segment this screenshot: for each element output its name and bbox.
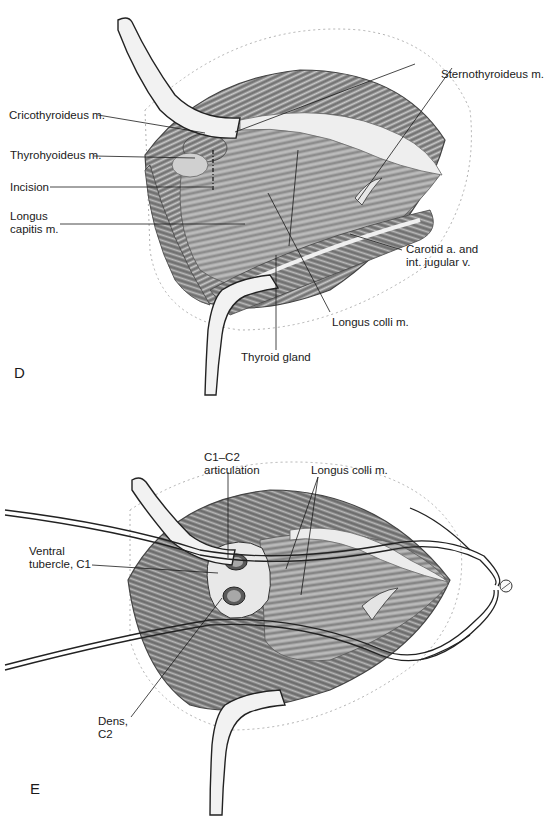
label-cricothyroideus: Cricothyroideus m. (9, 109, 105, 122)
label-carotid-line1: Carotid a. and (406, 243, 478, 256)
label-thyroid-gland: Thyroid gland (241, 351, 311, 364)
panel-d: Cricothyroideus m. Thyrohyoideus m. Inci… (0, 0, 541, 410)
label-longus-capitis-line1: Longus (10, 210, 48, 223)
label-longus-colli-e: Longus colli m. (311, 464, 388, 477)
label-c1c2-line2: articulation (204, 464, 260, 477)
panel-letter-d: D (14, 364, 25, 381)
surgical-field-illustration-e (0, 410, 541, 823)
label-c1c2-line1: C1–C2 (204, 451, 240, 464)
label-longus-colli-d: Longus colli m. (332, 316, 409, 329)
label-dens-line2: C2 (98, 728, 113, 741)
label-ventral-tubercle-line1: Ventral (29, 545, 65, 558)
label-dens-line1: Dens, (98, 715, 128, 728)
panel-e: C1–C2 articulation Longus colli m. Ventr… (0, 410, 541, 823)
label-sternothyroideus: Sternothyroideus m. (441, 68, 544, 81)
label-longus-capitis-line2: capitis m. (10, 223, 59, 236)
surgical-field-illustration-d (0, 0, 541, 410)
label-ventral-tubercle-line2: tubercle, C1 (29, 558, 91, 571)
label-incision: Incision (10, 181, 49, 194)
label-carotid-line2: int. jugular v. (406, 256, 470, 269)
label-thyrohyoideus: Thyrohyoideus m. (10, 149, 101, 162)
panel-letter-e: E (30, 780, 40, 797)
